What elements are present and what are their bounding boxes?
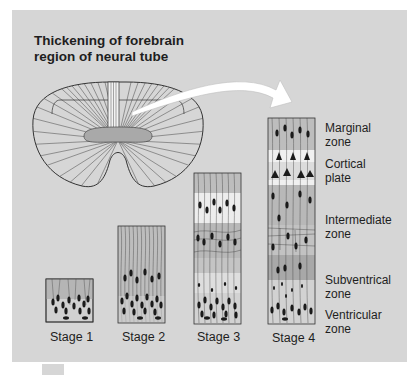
zone-label-ventricular: Ventricular zone bbox=[325, 308, 382, 336]
ventricle bbox=[84, 127, 152, 142]
neural-tube-cross-section bbox=[20, 60, 216, 200]
stage-2-column bbox=[118, 226, 165, 323]
stage-3-label: Stage 3 bbox=[197, 330, 240, 344]
zone-label-cortical-plate: Cortical plate bbox=[325, 157, 366, 185]
zone-label-marginal: Marginal zone bbox=[325, 121, 371, 149]
stage-3-column bbox=[194, 173, 241, 324]
stage-4-column bbox=[268, 118, 315, 324]
zone-label-subventrical: Subventrical zone bbox=[325, 273, 391, 301]
corner-tab bbox=[42, 364, 64, 375]
zone-label-intermediate: Intermediate zone bbox=[325, 213, 392, 241]
stage-1-column bbox=[46, 279, 93, 322]
stage-2-label: Stage 2 bbox=[122, 330, 165, 344]
stage-4-label: Stage 4 bbox=[272, 331, 315, 345]
stage-1-label: Stage 1 bbox=[50, 330, 93, 344]
